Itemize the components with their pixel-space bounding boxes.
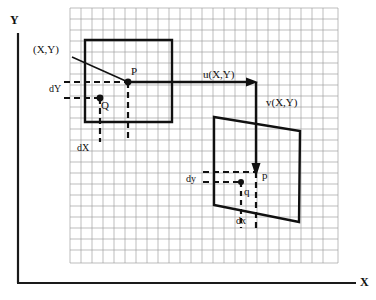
source-point-label: (X,Y)	[33, 44, 59, 55]
axes-group	[17, 33, 356, 283]
grid-vertical-lines	[70, 8, 338, 263]
delta-y-label: dy	[186, 174, 196, 184]
grid-group	[70, 8, 338, 263]
vector-field-mapping-diagram: Y X (X,Y) P Q dY dX u(X,Y) v(X,Y) p q dy…	[0, 0, 376, 300]
delta-x-label: dx	[236, 216, 246, 226]
source-point-leader-line	[72, 57, 128, 82]
y-axis-label: Y	[10, 14, 19, 26]
point-marker-P	[125, 79, 132, 86]
point-label-P: P	[131, 66, 137, 77]
point-label-p-lower: p	[262, 170, 268, 181]
u-component-label: u(X,Y)	[203, 69, 234, 80]
point-label-Q: Q	[101, 100, 109, 111]
delta-Y-label: dY	[49, 84, 61, 94]
delta-X-label: dX	[77, 143, 89, 153]
point-label-q-lower: q	[244, 186, 250, 197]
v-component-label: v(X,Y)	[266, 97, 297, 108]
lower-dashed-construction	[203, 172, 256, 228]
x-axis-label: X	[360, 276, 369, 288]
grid-horizontal-lines	[70, 8, 338, 263]
upper-dashed-construction	[64, 82, 172, 142]
